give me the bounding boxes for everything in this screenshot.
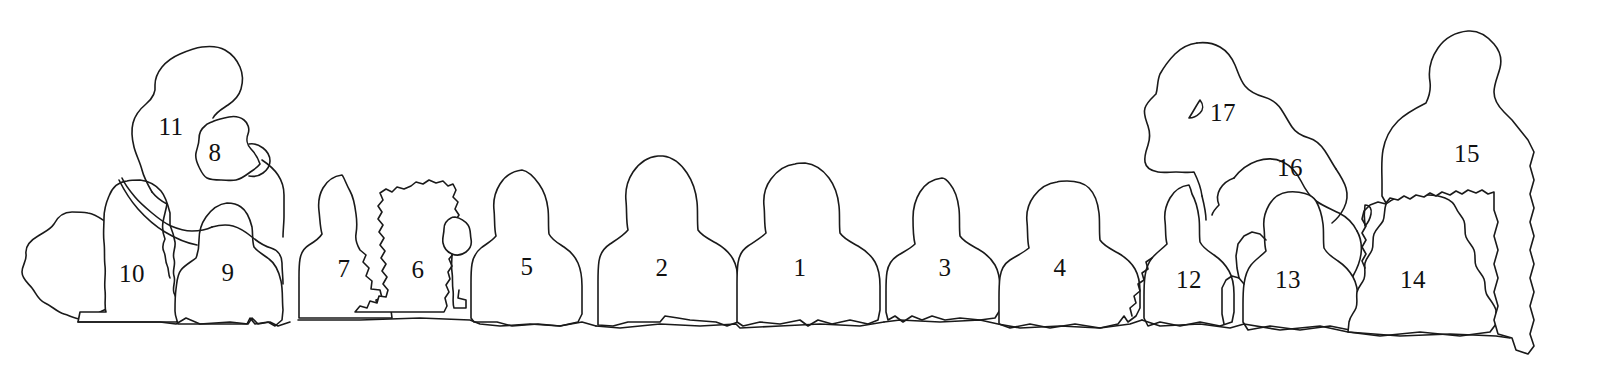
figure-label-3: 3 [939,255,952,280]
figure-label-12: 12 [1176,267,1202,292]
silhouette-person-2 [598,156,738,326]
silhouette-person-17-eye-notch [1189,100,1203,118]
figure-identification-key: 1 2 3 4 5 6 7 8 9 10 11 12 13 14 15 16 1… [0,0,1604,380]
figure-label-1: 1 [794,255,807,280]
silhouette-person-4 [999,181,1140,328]
figure-label-5: 5 [521,254,534,279]
figure-label-17: 17 [1210,100,1236,125]
figure-label-2: 2 [656,255,669,280]
figure-label-15: 15 [1454,141,1480,166]
silhouette-person-3 [886,178,1000,322]
silhouette-person-1 [737,163,880,326]
figure-label-9: 9 [222,260,235,285]
figure-label-8: 8 [209,140,222,165]
silhouette-person-5 [471,170,582,326]
silhouette-person-8 [196,117,260,181]
silhouette-small-head-between-6-and-5 [443,217,472,255]
silhouette-person-17-arm [1202,196,1206,220]
figure-label-11: 11 [158,114,183,139]
figure-label-16: 16 [1277,155,1303,180]
figure-label-14: 14 [1400,267,1426,292]
figure-label-4: 4 [1054,255,1067,280]
figure-label-13: 13 [1275,267,1301,292]
silhouette-outline-drawing [0,0,1604,380]
figure-label-6: 6 [412,257,425,282]
silhouette-person-17 [1144,43,1202,196]
silhouette-person-12 [1144,185,1234,326]
silhouette-person-17-right-taper [1332,169,1347,223]
silhouette-small-head-neck [452,254,466,308]
figure-label-10: 10 [119,261,145,286]
figure-label-7: 7 [338,256,351,281]
silhouette-person-16-left [1212,178,1234,215]
silhouette-person-16-body [1353,231,1361,276]
